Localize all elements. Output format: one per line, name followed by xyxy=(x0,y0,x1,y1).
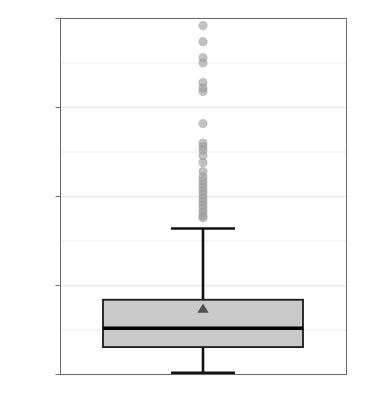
figure-background xyxy=(0,0,370,415)
outlier-point xyxy=(199,119,207,127)
outlier-point xyxy=(199,87,207,95)
outlier-point xyxy=(199,38,207,46)
boxplot-figure xyxy=(0,0,370,415)
outlier-point xyxy=(199,22,207,30)
outlier-point xyxy=(199,214,207,222)
outlier-point xyxy=(199,59,207,67)
outlier-point xyxy=(199,159,207,167)
